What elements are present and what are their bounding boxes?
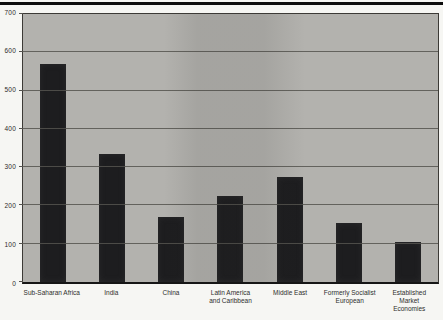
y-tick-label-500: 500 [5,87,16,94]
bar-0 [40,64,66,282]
y-tick-label-0: 0 [12,281,16,288]
y-tick-mark-200 [19,204,23,205]
y-tick-mark-500 [19,90,23,91]
gridline-200 [23,204,438,205]
bar-1 [99,154,125,282]
x-tick-label-3: Latin America and Caribbean [201,289,261,313]
bar-5 [336,223,362,282]
y-tick-label-700: 700 [5,10,16,17]
bar-6 [395,242,421,282]
bar-2 [158,217,184,282]
x-tick-label-0: Sub-Saharan Africa [22,289,82,313]
y-tick-mark-300 [19,166,23,167]
y-tick-label-100: 100 [5,242,16,249]
top-rule-divider [0,2,443,5]
x-tick-label-4: Middle East [260,289,320,313]
gridline-400 [23,128,438,129]
y-tick-mark-700 [19,13,23,14]
x-tick-label-5: Formerly Socialist European [320,289,380,313]
gridline-300 [23,166,438,167]
gridline-100 [23,243,438,244]
y-tick-mark-400 [19,128,23,129]
gridline-600 [23,51,438,52]
y-axis: 0100200300400500600700 [0,13,18,284]
gridline-500 [23,90,438,91]
x-tick-label-2: China [141,289,201,313]
y-tick-label-600: 600 [5,48,16,55]
x-axis-labels: Sub-Saharan AfricaIndiaChinaLatin Americ… [22,289,439,313]
bar-3 [217,196,243,282]
chart-figure: 0100200300400500600700 Sub-Saharan Afric… [0,0,443,320]
y-tick-mark-0 [19,281,23,282]
x-tick-label-1: India [82,289,142,313]
y-tick-mark-600 [19,51,23,52]
y-tick-label-300: 300 [5,165,16,172]
y-tick-label-400: 400 [5,126,16,133]
y-tick-label-200: 200 [5,203,16,210]
x-tick-label-6: Established Market Economies [379,289,439,313]
bar-4 [277,177,303,282]
plot-area [22,13,439,284]
y-tick-mark-100 [19,243,23,244]
